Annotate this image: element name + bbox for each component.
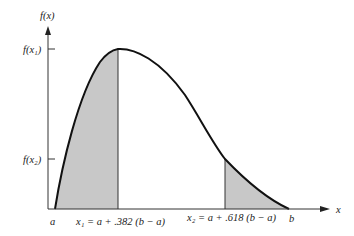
shaded-region-left (55, 49, 118, 209)
x-label-a: a (50, 216, 55, 227)
shaded-region-right (225, 159, 289, 209)
x-axis-arrow-icon (320, 206, 330, 212)
x-label-x1: x₁ = a + .382 (b − a) (75, 216, 166, 228)
x-label-x2: x₂ = a + .618 (b − a) (186, 212, 277, 224)
x-label-b: b (289, 213, 294, 224)
golden-section-diagram: f(x) x f(x₁) f(x₂) a x₁ = a + .382 (b − … (0, 0, 354, 236)
y-tick-label-f-x1: f(x₁) (23, 44, 42, 56)
y-axis-arrow-icon (45, 26, 51, 35)
x-axis-label: x (335, 204, 341, 215)
y-axis-label: f(x) (40, 10, 55, 22)
y-tick-label-f-x2: f(x₂) (23, 154, 42, 166)
